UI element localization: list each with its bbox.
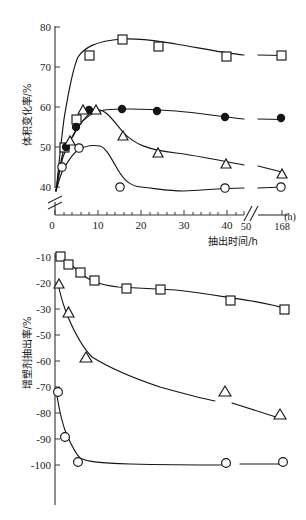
curve-triangle-volume xyxy=(56,110,244,191)
x-axis-break-volume xyxy=(244,206,258,221)
x-tick-0-volume: 0 xyxy=(49,219,55,231)
y-tick-neg60-plasticizer: -60 xyxy=(36,355,51,367)
x-tick-30-volume: 30 xyxy=(179,219,191,231)
volume-chart-svg: 体积变化率/% 80 70 60 50 40 xyxy=(0,0,306,250)
markers-square-volume xyxy=(60,35,286,152)
y-tick-50-volume: 50 xyxy=(40,141,52,153)
x-tick-168-volume: 168 xyxy=(274,221,290,232)
x-tick-10-volume: 10 xyxy=(93,219,105,231)
y-tick-neg10-plasticizer: -10 xyxy=(36,251,51,263)
chart-volume-change-rate: 体积变化率/% 80 70 60 50 40 xyxy=(0,0,306,250)
y-tick-neg30-plasticizer: -30 xyxy=(36,303,51,315)
curve-triangle-plasticizer xyxy=(58,284,215,401)
figure-root: 体积变化率/% 80 70 60 50 40 xyxy=(0,0,306,520)
y-tick-40-volume: 40 xyxy=(40,181,52,193)
x-axis-unit-volume: (h) xyxy=(284,211,296,223)
y-tick-60-volume: 60 xyxy=(40,101,52,113)
y-tick-neg50-plasticizer: -50 xyxy=(36,329,51,341)
y-tick-neg70-plasticizer: -70 xyxy=(36,381,51,393)
y-tick-neg80-plasticizer: -80 xyxy=(36,407,51,419)
markers-square-plasticizer xyxy=(56,252,289,314)
curve-open-circle-volume xyxy=(56,145,244,191)
markers-triangle-volume xyxy=(65,105,287,178)
y-tick-neg90-plasticizer: -90 xyxy=(36,433,51,445)
y-tick-neg100-plasticizer: -100 xyxy=(31,459,52,471)
curve-square-volume xyxy=(56,39,244,191)
markers-triangle-plasticizer xyxy=(54,279,286,419)
y-tick-80-volume: 80 xyxy=(40,21,52,33)
y-axis-title-volume: 体积变化率/% xyxy=(21,84,33,147)
y-axis-title-plasticizer: 增塑剂抽出率/% xyxy=(21,317,33,390)
chart-plasticizer-extraction-rate: 增塑剂抽出率/% -10 -20 -30 -50 -60 -70 -80 xyxy=(0,243,306,520)
y-tick-70-volume: 70 xyxy=(40,61,52,73)
markers-open-circle-plasticizer xyxy=(54,388,288,468)
curve-open-circle-plasticizer xyxy=(57,396,230,465)
curve-triangle-plasticizer-right xyxy=(232,403,276,417)
plasticizer-chart-svg: 增塑剂抽出率/% -10 -20 -30 -50 -60 -70 -80 xyxy=(0,243,306,520)
y-tick-neg20-plasticizer: -20 xyxy=(36,277,51,289)
curve-triangle-volume-right xyxy=(258,166,282,172)
x-tick-50-volume: 50 xyxy=(241,221,252,232)
markers-open-circle-volume xyxy=(58,144,285,192)
x-tick-20-volume: 20 xyxy=(136,219,148,231)
curve-filled-circle-volume xyxy=(56,109,244,191)
x-tick-40-volume: 40 xyxy=(222,219,234,231)
